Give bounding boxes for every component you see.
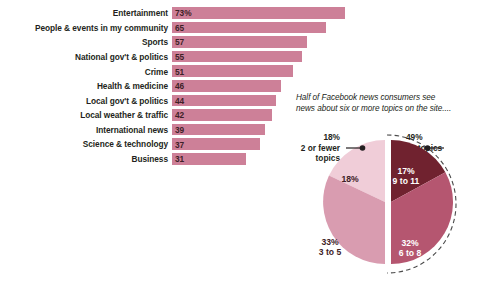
pie-label-32: 32% 6 to 8 bbox=[386, 238, 434, 259]
bar-row: Entertainment 73% bbox=[0, 6, 350, 21]
bar-value-label: 42 bbox=[175, 111, 184, 119]
pie-label-17: 17% 9 to 11 bbox=[384, 166, 428, 187]
bar-category-label: Sports bbox=[0, 38, 172, 46]
bar-value-label: 39 bbox=[175, 126, 184, 134]
bar-category-label: Local weather & traffic bbox=[0, 111, 172, 119]
bar-category-label: Entertainment bbox=[0, 9, 172, 17]
bar-value-label: 73% bbox=[175, 9, 192, 17]
bar-category-label: People & events in my community bbox=[0, 24, 172, 32]
pie-label-18: 18% bbox=[328, 174, 372, 184]
bar-track: 55 bbox=[172, 50, 350, 65]
bar-row: Crime 51 bbox=[0, 64, 350, 79]
bar-track: 51 bbox=[172, 64, 350, 79]
leader-dot-left bbox=[360, 145, 366, 151]
bar-category-label: International news bbox=[0, 126, 172, 134]
bar-value-label: 37 bbox=[175, 140, 184, 148]
pie-chart-group: Half of Facebook news consumers see news… bbox=[232, 92, 485, 282]
bar-category-label: Local gov't & politics bbox=[0, 97, 172, 105]
bar-category-label: National gov't & politics bbox=[0, 53, 172, 61]
bar-category-label: Business bbox=[0, 155, 172, 163]
bar-category-label: Crime bbox=[0, 68, 172, 76]
bar-category-label: Health & medicine bbox=[0, 82, 172, 90]
bar-fill bbox=[172, 80, 281, 92]
bar-row: Sports 57 bbox=[0, 35, 350, 50]
bar-value-label: 51 bbox=[175, 68, 184, 76]
pie-label-17-range: 9 to 11 bbox=[393, 176, 420, 186]
bar-value-label: 44 bbox=[175, 97, 184, 105]
bar-fill bbox=[172, 51, 302, 63]
pie-caption: Half of Facebook news consumers see news… bbox=[296, 92, 456, 115]
bar-track: 65 bbox=[172, 21, 350, 36]
bar-value-label: 46 bbox=[175, 82, 184, 90]
bar-fill bbox=[172, 36, 307, 48]
pie-label-17-pct: 17% bbox=[397, 166, 414, 176]
infographic-canvas: Entertainment 73% People & events in my … bbox=[0, 0, 485, 282]
pie-label-18-pct: 18% bbox=[341, 174, 358, 184]
bar-fill bbox=[172, 65, 293, 77]
bar-value-label: 55 bbox=[175, 53, 184, 61]
bar-fill bbox=[172, 22, 326, 34]
bar-row: People & events in my community 65 bbox=[0, 21, 350, 36]
pie-label-33: 33% 3 to 5 bbox=[306, 237, 354, 258]
bar-value-label: 57 bbox=[175, 38, 184, 46]
bar-track: 73% bbox=[172, 6, 350, 21]
pie-label-32-range: 6 to 8 bbox=[399, 248, 421, 258]
pie-label-33-range: 3 to 5 bbox=[319, 247, 341, 257]
bar-value-label: 65 bbox=[175, 24, 184, 32]
pie-label-32-pct: 32% bbox=[401, 238, 418, 248]
bar-fill bbox=[172, 7, 345, 19]
pie-label-33-pct: 33% bbox=[321, 237, 338, 247]
bar-category-label: Science & technology bbox=[0, 140, 172, 148]
bar-value-label: 31 bbox=[175, 155, 184, 163]
bar-track: 57 bbox=[172, 35, 350, 50]
leader-dot-right bbox=[425, 145, 431, 151]
bar-row: National gov't & politics 55 bbox=[0, 50, 350, 65]
